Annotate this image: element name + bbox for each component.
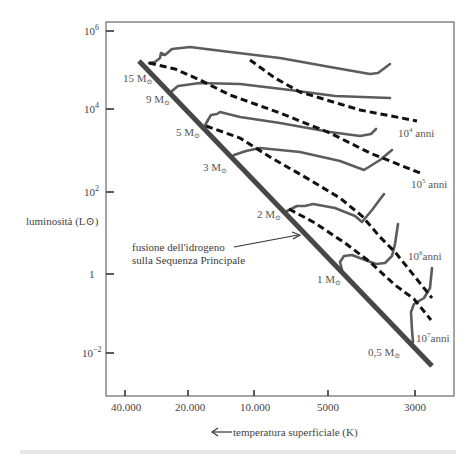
track-5msun: [204, 112, 376, 136]
main-sequence-line: [139, 61, 432, 366]
x-axis-label-group: temperatura superficiale (K): [212, 426, 358, 439]
label-iso-1e5: 105 anni: [411, 177, 447, 190]
y-tick-1: 1: [89, 268, 95, 280]
label-iso-1e4: 104 anni: [398, 126, 434, 139]
x-tick-20000: 20.000: [175, 401, 206, 413]
y-axis-ticks: [106, 31, 114, 353]
y-tick-1e4: 104: [84, 101, 99, 115]
x-axis-label: temperatura superficiale (K): [233, 426, 358, 439]
label-15msun: 15 M⊙: [123, 72, 153, 86]
label-1msun: 1 M⊙: [317, 273, 341, 287]
x-tick-40000: 40.000: [111, 401, 142, 413]
annotation-line2: sulla Sequenza Principale: [132, 254, 245, 266]
label-9msun: 9 M⊙: [146, 93, 170, 107]
y-tick-1e6: 106: [84, 23, 99, 37]
isochrone-1e7: [289, 209, 431, 320]
bottom-band: [20, 450, 456, 454]
y-tick-1e-2: 10−2: [82, 345, 102, 359]
annotation-line1: fusione dell'idrogeno: [132, 241, 225, 253]
label-5msun: 5 M⊙: [176, 126, 200, 140]
evolutionary-tracks: [149, 47, 432, 342]
hr-diagram: 106 104 102 1 10−2 luminosità (L⊙) 40.00…: [0, 0, 476, 460]
label-iso-1e7: 107anni: [416, 331, 449, 344]
label-2msun: 2 M⊙: [257, 208, 281, 222]
x-tick-3000: 3000: [404, 401, 427, 413]
y-tick-1e2: 102: [84, 184, 99, 198]
track-9msun: [172, 83, 390, 98]
label-05msun: 0,5 M⊙: [368, 346, 400, 360]
isochrone-1e5: [149, 63, 420, 173]
track-15msun: [149, 47, 390, 74]
x-axis-ticks: [125, 390, 415, 396]
x-tick-10000: 10.000: [240, 401, 271, 413]
label-iso-1e6: 106anni: [408, 249, 441, 262]
main-sequence-annotation: fusione dell'idrogeno sulla Sequenza Pri…: [132, 232, 300, 266]
label-3msun: 3 M⊙: [203, 161, 227, 175]
annotation-arrow-icon: [234, 235, 298, 247]
x-tick-5000: 5000: [317, 401, 340, 413]
y-axis-label: luminosità (L⊙): [26, 215, 99, 228]
track-2msun: [287, 194, 384, 222]
